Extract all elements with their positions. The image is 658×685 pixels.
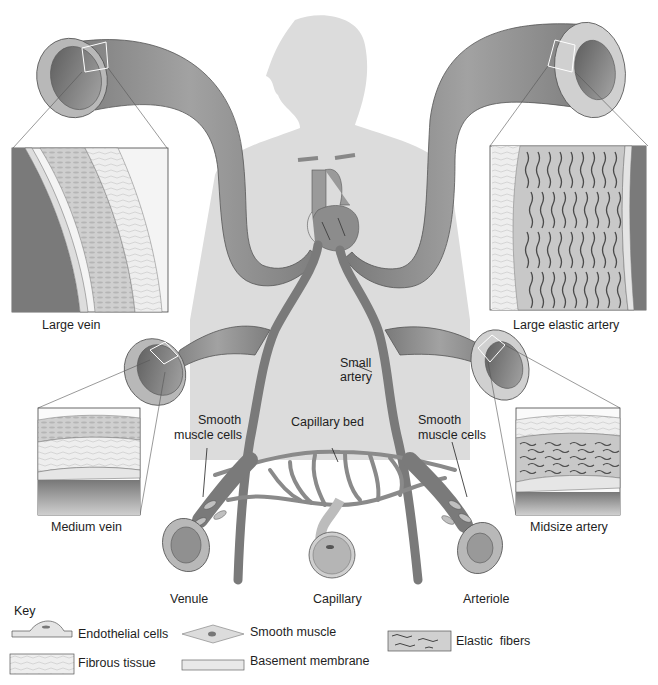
arteriole <box>410 460 510 580</box>
label-capillary: Capillary <box>313 592 362 606</box>
label-large-elastic-artery: Large elastic artery <box>513 318 619 332</box>
large-vein-inset <box>12 148 168 312</box>
vessel-diagram <box>0 0 658 685</box>
elastic-fibers-icon <box>388 631 451 651</box>
label-midsize-artery: Midsize artery <box>530 520 608 534</box>
key-label-elastic-fibers: Elastic fibers <box>456 634 530 648</box>
label-smooth-muscle-right-1: Smooth <box>418 413 461 427</box>
label-medium-vein: Medium vein <box>51 520 122 534</box>
label-large-vein: Large vein <box>42 318 100 332</box>
endothelial-cell-icon <box>12 621 72 637</box>
key-title: Key <box>14 604 36 618</box>
label-smooth-muscle-left-1: Smooth <box>198 413 241 427</box>
label-venule: Venule <box>170 592 208 606</box>
key-label-basement-membrane: Basement membrane <box>250 654 370 668</box>
fibrous-tissue-icon <box>10 654 74 674</box>
basement-membrane-icon <box>182 660 244 670</box>
large-elastic-artery-inset <box>490 146 646 310</box>
key-label-fibrous-tissue: Fibrous tissue <box>78 656 156 670</box>
label-smooth-muscle-right-2: muscle cells <box>418 428 486 442</box>
key-label-endothelial-cells: Endothelial cells <box>78 627 168 641</box>
key-swatches <box>10 621 451 674</box>
label-arteriole: Arteriole <box>463 592 510 606</box>
label-small-artery-2: artery <box>340 370 372 384</box>
capillary <box>309 500 355 578</box>
midsize-artery-inset <box>516 408 620 515</box>
key-label-smooth-muscle: Smooth muscle <box>250 625 336 639</box>
label-capillary-bed: Capillary bed <box>291 415 364 429</box>
label-small-artery-1: Small <box>340 356 371 370</box>
label-smooth-muscle-left-2: muscle cells <box>174 428 242 442</box>
medium-vein-inset <box>38 408 140 515</box>
